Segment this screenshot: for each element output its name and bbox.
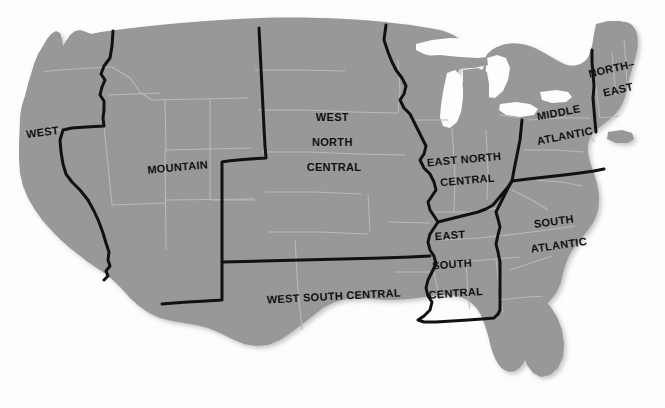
wnc-label-line-0: WEST bbox=[316, 111, 349, 123]
map-canvas: WEST MOUNTAIN WEST NORTH CENTRAL EAST NO… bbox=[0, 0, 665, 408]
esc-label-line-0: EAST bbox=[434, 228, 465, 242]
landmass-group bbox=[19, 18, 638, 378]
long-island bbox=[607, 130, 634, 143]
census-divisions-map: WEST MOUNTAIN WEST NORTH CENTRAL EAST NO… bbox=[0, 0, 665, 408]
wnc-label-line-1: NORTH bbox=[312, 136, 353, 148]
wnc-label-line-2: CENTRAL bbox=[307, 161, 362, 173]
